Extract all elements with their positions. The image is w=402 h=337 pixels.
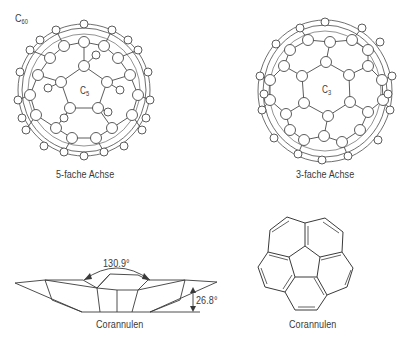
corannulen-structure (258, 217, 353, 310)
c5-label: C5 (80, 85, 89, 97)
caption-corannulen-side: Corannulen (96, 318, 143, 330)
c5-label-sub: 5 (86, 90, 89, 97)
c60-label-sub: 60 (22, 18, 29, 25)
angle-130-label: 130.9° (103, 257, 130, 269)
corannulen-side-view (15, 268, 217, 312)
c60-label: C60 (15, 12, 28, 25)
angle-26-label: 26.8° (196, 294, 218, 306)
caption-5fold: 5-fache Achse (56, 168, 114, 180)
c3-label-sub: 3 (328, 89, 331, 96)
c3-label: C3 (322, 84, 331, 96)
caption-corannulen-top: Corannulen (289, 318, 336, 330)
caption-3fold: 3-fache Achse (296, 168, 354, 180)
